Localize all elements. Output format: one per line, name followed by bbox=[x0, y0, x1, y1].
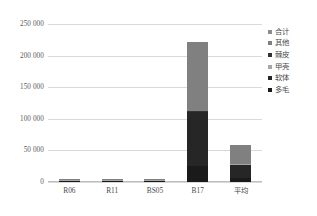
bar-segment bbox=[187, 166, 208, 182]
legend-item[interactable]: 棘皮 bbox=[268, 49, 316, 61]
bar-stack bbox=[59, 179, 80, 182]
y-axis-tick-label: 0 bbox=[40, 178, 44, 186]
bar-group bbox=[177, 24, 219, 182]
x-axis-tick-label: BS05 bbox=[134, 186, 176, 202]
legend-swatch-icon bbox=[268, 30, 272, 34]
bar-segment bbox=[102, 181, 123, 182]
bar-stack bbox=[102, 179, 123, 182]
legend-label: 合计 bbox=[275, 28, 289, 36]
legend-item[interactable]: 其他 bbox=[268, 38, 316, 50]
y-axis-tick-label: 250 000 bbox=[20, 20, 44, 28]
bar-group bbox=[220, 24, 262, 182]
gridline bbox=[48, 182, 262, 183]
legend-item[interactable]: 合计 bbox=[268, 26, 316, 38]
legend: 合计其他棘皮甲壳软体多毛 bbox=[268, 26, 316, 96]
bar-group bbox=[91, 24, 133, 182]
bar-segment bbox=[59, 181, 80, 182]
legend-label: 软体 bbox=[275, 74, 289, 82]
x-axis-tick-label: R11 bbox=[91, 186, 133, 202]
bar-segment bbox=[187, 42, 208, 111]
y-axis-tick-label: 150 000 bbox=[20, 83, 44, 91]
y-axis-tick-label: 50 000 bbox=[24, 146, 44, 154]
stacked-bar-chart: 250 000200 000150 000100 00050 0000 R06R… bbox=[0, 0, 317, 216]
bar-segment bbox=[230, 178, 251, 182]
bar-stack bbox=[230, 145, 251, 182]
legend-swatch-icon bbox=[268, 53, 272, 57]
x-axis-tick-label: 平均 bbox=[220, 186, 262, 202]
legend-swatch-icon bbox=[268, 76, 272, 80]
bar-segment bbox=[230, 145, 251, 164]
bar-segment bbox=[230, 165, 251, 178]
legend-label: 其他 bbox=[275, 39, 289, 47]
legend-item[interactable]: 多毛 bbox=[268, 84, 316, 96]
x-axis: R06R11BS05B17平均 bbox=[48, 186, 262, 202]
legend-swatch-icon bbox=[268, 41, 272, 45]
bar-segment bbox=[187, 112, 208, 166]
x-axis-tick-label: B17 bbox=[177, 186, 219, 202]
legend-label: 甲壳 bbox=[275, 63, 289, 71]
y-axis-tick-label: 200 000 bbox=[20, 52, 44, 60]
plot-area bbox=[48, 24, 262, 182]
bar-group bbox=[49, 24, 91, 182]
bar-stack bbox=[187, 42, 208, 182]
bar-stack bbox=[144, 179, 165, 182]
y-axis: 250 000200 000150 000100 00050 0000 bbox=[0, 24, 44, 182]
bars-layer bbox=[48, 24, 262, 182]
legend-item[interactable]: 软体 bbox=[268, 72, 316, 84]
legend-swatch-icon bbox=[268, 65, 272, 69]
bar-group bbox=[134, 24, 176, 182]
x-axis-tick-label: R06 bbox=[49, 186, 91, 202]
y-axis-tick-label: 100 000 bbox=[20, 115, 44, 123]
legend-item[interactable]: 甲壳 bbox=[268, 61, 316, 73]
legend-label: 多毛 bbox=[275, 86, 289, 94]
legend-label: 棘皮 bbox=[275, 51, 289, 59]
legend-swatch-icon bbox=[268, 88, 272, 92]
bar-segment bbox=[144, 181, 165, 182]
